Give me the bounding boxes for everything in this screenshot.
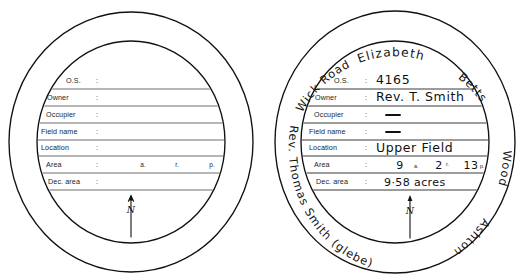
field-label-owner: Owner <box>47 93 69 102</box>
colon-field-name-filled: : <box>365 127 367 136</box>
value-area-unit-perches: p. <box>480 163 485 169</box>
field-label-occupier-filled: Occupier <box>314 110 344 119</box>
diagram-completed-example: O.S. Owner Occupier Field name Location … <box>264 0 527 280</box>
annulus-label-elizabeth: Elizabeth <box>355 45 426 66</box>
field-label-field-name: Field name <box>41 127 78 136</box>
value-area-roods: 2 <box>435 159 442 172</box>
colon-field-name: : <box>96 127 98 136</box>
colon-location-filled: : <box>365 143 367 152</box>
field-label-os: O.S. <box>66 76 81 85</box>
field-label-area: Area <box>46 160 62 169</box>
value-os: 4165 <box>376 72 410 87</box>
field-label-location: Location <box>41 143 69 152</box>
colon-location: : <box>96 143 98 152</box>
colon-area-filled: : <box>365 160 367 169</box>
colon-os: : <box>96 76 98 85</box>
field-label-group-blank: O.S. Owner Occupier Field name Location … <box>41 76 81 186</box>
value-location: Upper Field <box>376 140 453 155</box>
area-unit-perches: p. <box>209 161 215 169</box>
annulus-label-ashton: Ashton <box>451 216 493 260</box>
area-units-blank: a. r. p. <box>140 161 215 169</box>
annulus-text-wood: Wood <box>495 150 514 188</box>
field-label-dec-area: Dec. area <box>48 177 80 186</box>
area-unit-roods: r. <box>175 161 179 168</box>
field-label-field-name-filled: Field name <box>309 127 346 136</box>
value-area-unit-roods: r. <box>446 161 449 167</box>
north-arrow-filled: N <box>405 195 415 238</box>
area-unit-acres: a. <box>140 161 146 168</box>
field-label-dec-area-filled: Dec. area <box>316 177 348 186</box>
colon-dec-area-filled: : <box>365 177 367 186</box>
annulus-text-ashton: Ashton <box>451 216 493 260</box>
colon-owner-filled: : <box>365 93 367 102</box>
annulus-text-elizabeth: Elizabeth <box>355 45 426 66</box>
value-area-perches: 13 <box>464 159 479 172</box>
colon-column-filled: : : : : : : : <box>365 76 367 186</box>
colon-occupier-filled: : <box>365 110 367 119</box>
north-arrow-blank: N <box>126 195 136 238</box>
figure-area: O.S. Owner Occupier Field name Location … <box>0 0 527 280</box>
colon-occupier: : <box>96 110 98 119</box>
colon-dec-area: : <box>96 177 98 186</box>
north-arrow-letter-blank: N <box>126 204 136 215</box>
colon-area: : <box>96 160 98 169</box>
value-area-acres: 9 <box>396 159 403 172</box>
field-label-occupier: Occupier <box>46 110 76 119</box>
ruled-lines-blank <box>20 89 245 190</box>
value-owner: Rev. T. Smith <box>376 89 465 104</box>
value-dec-area: 9·58 acres <box>384 176 446 189</box>
north-arrow-letter-filled: N <box>405 205 415 216</box>
annulus-label-wood: Wood <box>495 150 514 188</box>
diagram-blank-template: O.S. Owner Occupier Field name Location … <box>0 0 263 280</box>
field-label-area-filled: Area <box>314 160 330 169</box>
field-label-location-filled: Location <box>309 143 337 152</box>
colon-os-filled: : <box>365 76 367 85</box>
colon-owner: : <box>96 93 98 102</box>
value-area-unit-acres: a. <box>414 163 419 169</box>
colon-column-blank: : : : : : : : <box>96 76 98 186</box>
